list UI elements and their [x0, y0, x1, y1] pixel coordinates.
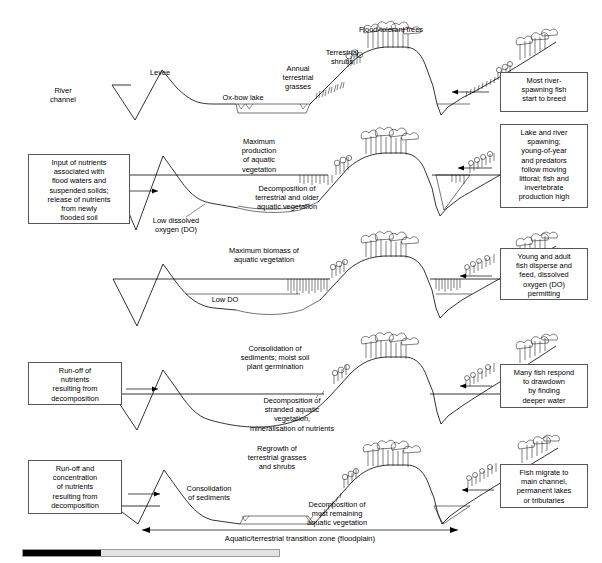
trees-right-edge-5 [518, 435, 559, 463]
shrubs-right-4 [465, 363, 494, 388]
oxbow-basin [236, 104, 310, 113]
panel-2-arrowhead-right [458, 166, 464, 171]
trees-cluster-5 [363, 440, 420, 467]
label-low-dissolved-oxygen: Low dissolved oxygen (DO) [140, 216, 212, 234]
callout-panel-5-left: Run-off and concentration of nutrients r… [28, 460, 122, 514]
label-consolidation-sediments-moist-soil: Consolidation of sediments; moist soil p… [215, 344, 335, 372]
label-ox-bow-lake: Ox-bow lake [208, 93, 278, 102]
label-consolidation-of-sediments: Consolidation of sediments [163, 484, 255, 502]
aquatic-vegetation-right-3 [436, 279, 460, 292]
label-decomposition-stranded-aquatic: Decomposition of stranded aquatic vegeta… [222, 396, 362, 433]
trees-cluster-4 [361, 332, 418, 359]
trees-cluster-2 [361, 127, 418, 155]
dense-aquatic-vegetation-3 [288, 279, 327, 294]
panel-5-arrowhead-right [462, 488, 468, 493]
label-terrestrial-shrubs: Terrestrial shrubs [314, 48, 370, 66]
backwater-wedge-2 [436, 175, 470, 210]
label-flood-tolerant-trees: Flood-tolerant trees [331, 25, 451, 34]
callout-panel-5-right: Fish migrate to main channel, permanent … [500, 464, 588, 508]
shrubs-left-2 [334, 155, 351, 175]
transition-zone-arrowhead-left [142, 527, 150, 533]
grass-tufts-right-slope [466, 77, 495, 97]
shrubs-left-3 [330, 259, 347, 278]
panel-3-arrowhead [460, 274, 466, 279]
panel-4-arrowhead-right [460, 384, 466, 389]
label-decomposition-terrestrial-older: Decomposition of terrestrial and older a… [235, 184, 339, 212]
panel-3: Maximum biomass of aquatic vegetation Lo… [0, 236, 602, 338]
callout-panel-2-left: Input of nutrients associated with flood… [28, 154, 130, 224]
transition-zone-label: Aquatic/terrestrial transition zone (flo… [140, 534, 460, 543]
label-maximum-production-aquatic-vegetation: Maximum production of aquatic vegetation [228, 137, 290, 174]
scrollbar-thumb[interactable] [23, 550, 101, 556]
label-regrowth-terrestrial-grasses-shrubs: Regrowth of terrestrial grasses and shru… [222, 444, 332, 472]
label-river-channel: River channel [40, 86, 86, 104]
trees-right-edge [516, 29, 557, 60]
horizontal-scrollbar[interactable] [22, 549, 280, 557]
panel-4-arrowhead-left [152, 387, 158, 392]
label-maximum-biomass-aquatic-vegetation: Maximum biomass of aquatic vegetation [208, 246, 320, 264]
shrubs-right-5 [467, 463, 496, 488]
callout-panel-4-right: Many fish respond to drawdown by finding… [500, 364, 588, 408]
oxbow-marsh-marks [238, 104, 307, 109]
river-channel-bank-3 [113, 279, 137, 326]
callout-panel-2-right: Lake and river spawning; young-of-year a… [500, 124, 588, 208]
panel-5-arrowhead-left [154, 492, 160, 497]
label-annual-grasses: Annual terrestrial grasses [271, 64, 325, 92]
label-levee: Levee [140, 68, 180, 77]
callout-panel-4-left: Run-off of nutrients resulting from deco… [28, 362, 122, 405]
panel-2-arrowhead-left [152, 189, 158, 194]
transition-zone-arrowhead-right [450, 527, 458, 533]
river-channel-bank [112, 85, 135, 120]
panel-5: Run-off and concentration of nutrients r… [0, 438, 602, 530]
label-low-do: Low DO [195, 295, 255, 304]
panel-1: River channel Levee Ox-bow lake Annual t… [0, 0, 602, 122]
trees-cluster-3 [361, 231, 418, 258]
callout-panel-3-right: Young and adult fish disperse and feed, … [500, 248, 588, 300]
shrubs-right-2 [469, 151, 495, 173]
callout-panel-1-right: Most river- spawning fish start to breed [500, 72, 588, 112]
panel-2: Input of nutrients associated with flood… [0, 118, 602, 236]
panel-4: Run-off of nutrients resulting from deco… [0, 336, 602, 440]
flooded-grass-right-2 [452, 175, 464, 184]
floodplain-diagram: River channel Levee Ox-bow lake Annual t… [0, 0, 602, 563]
shrubs-right-3 [465, 254, 494, 277]
panel-1-arrowhead [452, 90, 458, 95]
shrubs-left-5 [342, 468, 358, 488]
